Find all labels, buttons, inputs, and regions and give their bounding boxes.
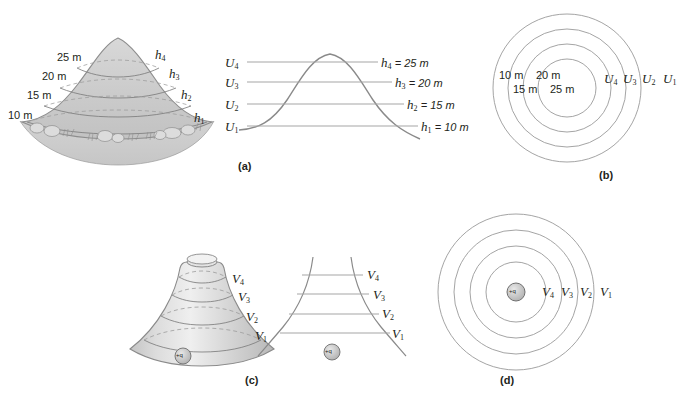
hill-slope-label-h1: h1 <box>194 111 205 126</box>
profile-label-U3: U3 <box>225 76 238 91</box>
funnel-label-V2: V2 <box>246 310 258 325</box>
equipotential-map-label-V3: V3 <box>561 285 573 300</box>
contour-map-label-U1: U1 <box>663 72 676 87</box>
figure-equipotential-surfaces: 25 m 20 m 15 m 10 m h4 h3 h2 h1 U4 U3 U2… <box>0 0 681 395</box>
equipotential-map-label-V2: V2 <box>580 285 592 300</box>
funnel-profile-equipotential-lines <box>280 275 390 333</box>
hill-slope-label-h2: h2 <box>181 88 192 103</box>
contour-map-label-15m: 15 m <box>513 84 537 95</box>
profile-h3-value-text: = 20 m <box>409 77 443 89</box>
hill-elevation-label-25m: 25 m <box>57 52 81 63</box>
caption-c: (c) <box>245 375 258 386</box>
funnel-profile-label-V3: V3 <box>373 288 385 303</box>
hill-elevation-label-20m: 20 m <box>42 71 66 82</box>
hill-elevation-label-10m: 10 m <box>8 110 32 121</box>
figure-linework <box>0 0 681 395</box>
hill-slope-label-h3: h3 <box>169 67 180 82</box>
contour-map-label-U3: U3 <box>623 72 636 87</box>
contour-map-label-25m: 25 m <box>550 84 574 95</box>
funnel-label-V4: V4 <box>232 272 244 287</box>
funnel-profile-label-V2: V2 <box>382 307 394 322</box>
contour-map-label-U2: U2 <box>642 72 655 87</box>
contour-map-label-10m: 10 m <box>499 70 523 81</box>
caption-a: (a) <box>238 161 251 172</box>
equipotential-map-label-V4: V4 <box>542 285 554 300</box>
funnel-profile-charge-label: +q <box>325 348 332 354</box>
hill-slope-label-h4: h4 <box>155 48 166 63</box>
profile-h1-value-text: = 10 m <box>435 121 469 133</box>
funnel-profile-label-V4: V4 <box>367 268 379 283</box>
profile-label-U2: U2 <box>225 98 238 113</box>
profile-h4-value-text: = 25 m <box>395 57 429 69</box>
profile-label-h3-value: h3 = 20 m <box>395 76 443 91</box>
funnel-label-V1: V1 <box>255 329 267 344</box>
profile-h2-value-text: = 15 m <box>421 99 455 111</box>
equipotential-map-label-V1: V1 <box>600 285 612 300</box>
funnel-label-V3: V3 <box>238 290 250 305</box>
contour-map-label-U4: U4 <box>604 72 617 87</box>
funnel-profile-label-V1: V1 <box>392 327 404 342</box>
profile-label-h4-value: h4 = 25 m <box>381 56 429 71</box>
profile-label-h2-value: h2 = 15 m <box>407 98 455 113</box>
hill-elevation-label-15m: 15 m <box>27 90 51 101</box>
profile-label-U4: U4 <box>225 56 238 71</box>
profile-label-U1: U1 <box>225 120 238 135</box>
contour-map-label-20m: 20 m <box>536 70 560 81</box>
funnel-charge-label: +q <box>176 352 183 358</box>
caption-d: (d) <box>500 375 514 386</box>
caption-b: (b) <box>599 170 613 181</box>
equipotential-map-charge-label: +q <box>509 288 516 294</box>
profile-label-h1-value: h1 = 10 m <box>421 120 469 135</box>
